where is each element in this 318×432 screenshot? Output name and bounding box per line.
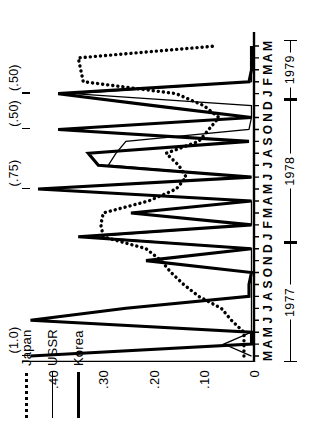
x-axis-month-label: J bbox=[262, 162, 275, 169]
peak-annotation-tick bbox=[22, 355, 30, 356]
y-axis-tick-label: .40 bbox=[47, 370, 60, 389]
x-axis-month-label: O bbox=[262, 125, 275, 134]
x-axis-month-label: M bbox=[262, 41, 275, 51]
x-axis-month-label: A bbox=[262, 54, 275, 63]
x-axis-month-label: J bbox=[262, 174, 275, 181]
x-axis-month-label: S bbox=[262, 280, 275, 288]
peak-annotation-label: (.50) bbox=[8, 64, 21, 91]
x-axis-month-label: J bbox=[262, 317, 275, 324]
x-axis-month-label: J bbox=[262, 305, 275, 312]
x-axis-tick-labels: MAMJJASONDJFMAMJJASONDJFMAM bbox=[262, 32, 278, 362]
x-axis-month-label: M bbox=[262, 184, 275, 194]
x-axis-month-label: S bbox=[262, 137, 275, 145]
year-band-label: 1977 bbox=[282, 285, 299, 320]
figure-page: Japan USSR Korea 0.10.20.30.40 bbox=[0, 0, 318, 432]
peak-annotation-label: (.50) bbox=[8, 100, 21, 127]
y-axis-tick-label: 0 bbox=[248, 370, 261, 378]
peak-annotation-label: (1.0) bbox=[8, 327, 21, 354]
x-axis-month-label: N bbox=[262, 113, 275, 122]
x-axis-month-label: A bbox=[262, 149, 275, 158]
year-band-1979: 1979 bbox=[282, 40, 302, 100]
year-axis-band: 197719781979 bbox=[282, 32, 302, 362]
year-band-cap-left bbox=[284, 241, 297, 242]
year-band-cap-left bbox=[284, 98, 297, 99]
year-band-cap-right bbox=[284, 40, 297, 41]
peak-annotation-tick bbox=[22, 188, 30, 189]
x-axis-month-label: F bbox=[262, 221, 275, 228]
year-band-1977: 1977 bbox=[282, 243, 302, 362]
year-band-cap-right bbox=[284, 100, 297, 101]
chart-svg bbox=[22, 32, 260, 362]
x-axis-month-label: F bbox=[262, 78, 275, 85]
x-axis-month-label: A bbox=[262, 197, 275, 206]
year-band-cap-right bbox=[284, 243, 297, 244]
year-band-cap-left bbox=[284, 361, 297, 362]
year-band-label: 1978 bbox=[282, 154, 299, 189]
y-axis-tick-label: .30 bbox=[97, 370, 110, 389]
x-axis-month-label: D bbox=[262, 101, 275, 110]
y-axis-tick-label: .20 bbox=[147, 370, 160, 389]
year-band-1978: 1978 bbox=[282, 100, 302, 243]
year-band-label: 1979 bbox=[282, 52, 299, 87]
data-series-group bbox=[31, 46, 252, 356]
rotated-figure-container: Japan USSR Korea 0.10.20.30.40 bbox=[0, 0, 318, 432]
series-line-korea bbox=[31, 46, 252, 356]
x-axis-month-label: J bbox=[262, 233, 275, 240]
x-axis-month-label: O bbox=[262, 268, 275, 277]
peak-annotation-tick bbox=[22, 92, 30, 93]
x-axis-month-label: M bbox=[262, 208, 275, 218]
peak-annotation-tick bbox=[22, 128, 30, 129]
y-axis-tick-label: .10 bbox=[197, 370, 210, 389]
x-axis-month-label: A bbox=[262, 292, 275, 301]
x-axis-month-label: N bbox=[262, 256, 275, 265]
x-axis-month-label: J bbox=[262, 90, 275, 97]
plot-area: (1.0)(.75)(.50)(.50) bbox=[22, 32, 260, 362]
x-axis-month-label: M bbox=[262, 65, 275, 75]
peak-annotation-label: (.75) bbox=[8, 160, 21, 187]
x-axis-month-label: M bbox=[262, 327, 275, 337]
y-axis-tick-labels: 0.10.20.30.40 bbox=[22, 366, 260, 418]
x-axis-month-label: M bbox=[262, 351, 275, 361]
x-axis-month-label: D bbox=[262, 244, 275, 253]
x-axis-month-label: A bbox=[262, 340, 275, 349]
series-line-japan bbox=[78, 46, 244, 356]
